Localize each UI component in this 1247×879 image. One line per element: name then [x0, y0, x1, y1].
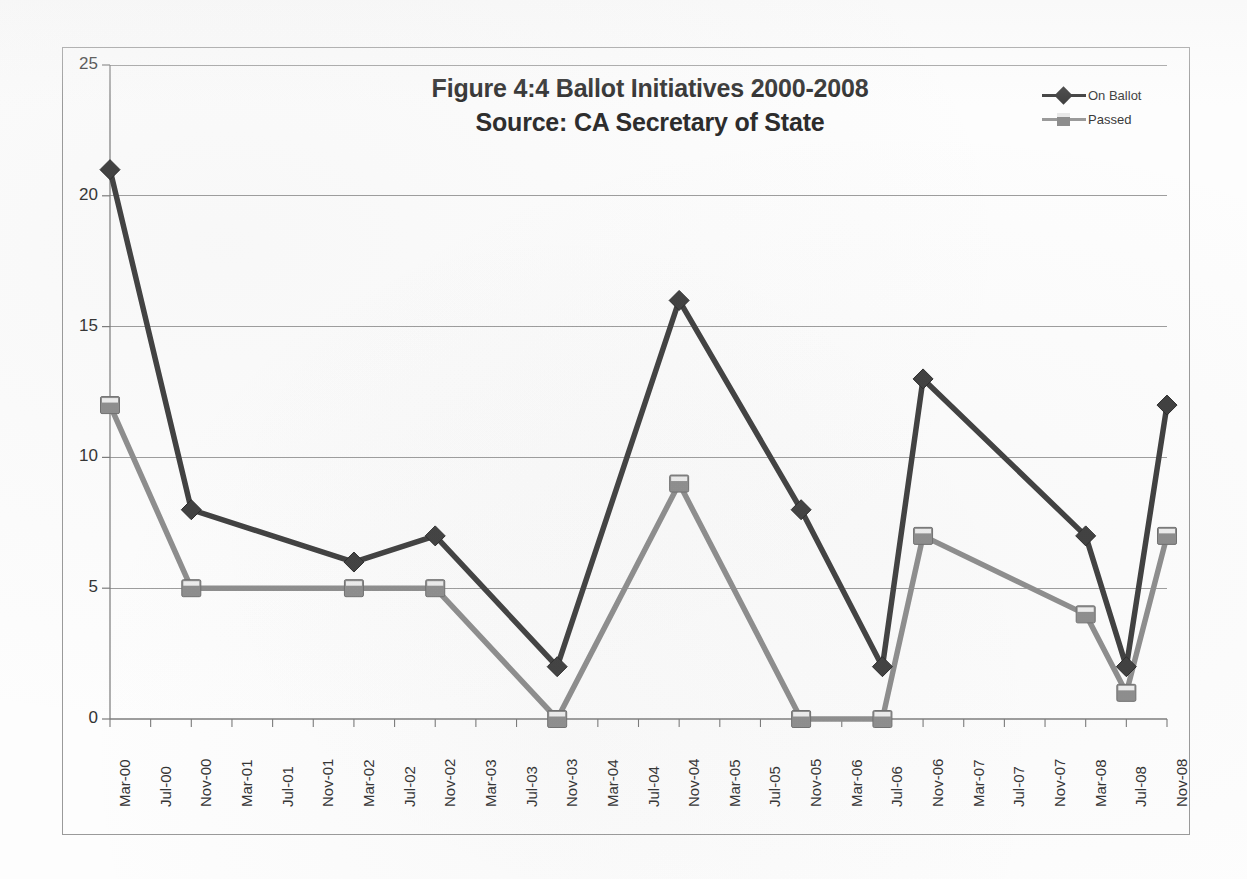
data-point-diamond[interactable]: [344, 552, 364, 572]
data-point-square[interactable]: [1076, 606, 1095, 623]
data-point-square[interactable]: [792, 711, 811, 728]
legend-item-passed[interactable]: Passed: [1042, 108, 1182, 130]
chart-subtitle: Source: CA Secretary of State: [330, 108, 970, 137]
series-line-on-ballot: [110, 170, 1167, 667]
legend-label-passed: Passed: [1086, 112, 1131, 127]
x-axis-tick-label: Nov-03: [563, 759, 580, 807]
data-point-square[interactable]: [548, 711, 567, 728]
data-point-square[interactable]: [101, 397, 120, 414]
x-axis-tick-label: Mar-07: [970, 759, 987, 807]
x-axis-tick-label: Jul-05: [766, 766, 783, 807]
x-axis-tick-label: Jul-03: [523, 766, 540, 807]
x-axis-tick-label: Mar-00: [116, 759, 133, 807]
x-axis-tick-label: Nov-08: [1173, 759, 1190, 807]
y-axis-tick-label: 5: [58, 577, 98, 597]
x-axis-tick-label: Mar-02: [360, 759, 377, 807]
legend-label-on-ballot: On Ballot: [1086, 88, 1141, 103]
series-line-passed: [110, 405, 1167, 719]
legend-item-on-ballot[interactable]: On Ballot: [1042, 84, 1182, 106]
x-axis-tick-label: Mar-05: [726, 759, 743, 807]
x-axis-tick-label: Nov-02: [441, 759, 458, 807]
chart-legend: On Ballot Passed: [1042, 84, 1182, 132]
x-axis-tick-label: Jul-06: [888, 766, 905, 807]
data-point-diamond[interactable]: [181, 500, 201, 520]
data-point-square[interactable]: [182, 580, 201, 597]
scanned-page: Figure 4:4 Ballot Initiatives 2000-2008 …: [0, 0, 1247, 879]
x-axis-tick-label: Mar-01: [238, 759, 255, 807]
line-chart-canvas: [62, 47, 1190, 835]
y-axis-tick-label: 10: [58, 446, 98, 466]
x-axis-tick-label: Jul-08: [1132, 766, 1149, 807]
x-axis-tick-label: Nov-06: [929, 759, 946, 807]
legend-swatch-on-ballot: [1042, 86, 1086, 104]
x-axis-tick-label: Nov-07: [1051, 759, 1068, 807]
data-point-square[interactable]: [670, 475, 689, 492]
data-point-square[interactable]: [873, 711, 892, 728]
x-axis-tick-label: Jul-07: [1010, 766, 1027, 807]
y-axis-tick-label: 25: [58, 54, 98, 74]
y-axis-tick-label: 15: [58, 316, 98, 336]
x-axis-tick-label: Mar-06: [848, 759, 865, 807]
data-point-diamond[interactable]: [872, 657, 892, 677]
data-point-diamond[interactable]: [100, 160, 120, 180]
data-point-square[interactable]: [914, 527, 933, 544]
x-axis-tick-label: Jul-04: [645, 766, 662, 807]
x-axis-tick-label: Mar-04: [604, 759, 621, 807]
chart-title: Figure 4:4 Ballot Initiatives 2000-2008: [330, 74, 970, 103]
x-axis-tick-label: Nov-05: [807, 759, 824, 807]
square-marker-icon: [1057, 113, 1070, 126]
x-axis-tick-label: Jul-02: [401, 766, 418, 807]
x-axis-tick-label: Jul-00: [157, 766, 174, 807]
data-point-square[interactable]: [1158, 527, 1177, 544]
data-point-diamond[interactable]: [1157, 395, 1177, 415]
legend-swatch-passed: [1042, 110, 1086, 128]
data-point-square[interactable]: [344, 580, 363, 597]
data-point-square[interactable]: [1117, 684, 1136, 701]
diamond-marker-icon: [1054, 86, 1072, 104]
x-axis-tick-label: Nov-00: [197, 759, 214, 807]
data-point-square[interactable]: [426, 580, 445, 597]
x-axis-tick-label: Mar-03: [482, 759, 499, 807]
x-axis-tick-label: Jul-01: [279, 766, 296, 807]
x-axis-tick-label: Nov-04: [685, 759, 702, 807]
y-axis-tick-label: 0: [58, 708, 98, 728]
x-axis-tick-label: Mar-08: [1092, 759, 1109, 807]
x-axis-tick-label: Nov-01: [319, 759, 336, 807]
y-axis-tick-label: 20: [58, 185, 98, 205]
